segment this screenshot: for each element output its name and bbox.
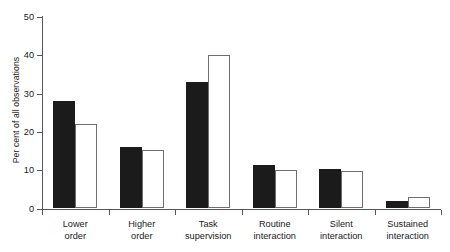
bar-filled-0 xyxy=(53,101,75,208)
bar-open-2 xyxy=(208,55,230,208)
y-axis-tick-mark xyxy=(37,55,42,56)
x-axis-tick-mark xyxy=(242,210,243,215)
bar-filled-4 xyxy=(319,169,341,208)
bar-filled-3 xyxy=(253,165,275,208)
y-axis-tick-label: 50 xyxy=(12,12,34,22)
y-axis-tick-label: 20 xyxy=(12,127,34,137)
x-axis-tick-mark xyxy=(42,210,43,215)
y-axis-tick-mark xyxy=(37,17,42,18)
y-axis-tick-mark xyxy=(37,94,42,95)
x-axis-tick-mark xyxy=(308,210,309,215)
bar-open-1 xyxy=(142,150,164,208)
bar-open-4 xyxy=(341,171,363,208)
x-axis-category-label: Sustainedinteraction xyxy=(369,218,448,243)
y-axis-tick-label: 30 xyxy=(12,89,34,99)
bar-filled-5 xyxy=(386,201,408,209)
bar-open-5 xyxy=(408,197,430,208)
y-axis-tick-label: 40 xyxy=(12,50,34,60)
y-axis-line xyxy=(42,16,43,210)
y-axis-tick-label: 10 xyxy=(12,165,34,175)
x-axis-tick-mark xyxy=(441,210,442,215)
x-axis-category-label-line: Sustained xyxy=(369,218,448,231)
x-axis-tick-mark xyxy=(109,210,110,215)
y-axis-tick-mark xyxy=(37,170,42,171)
x-axis-tick-mark xyxy=(375,210,376,215)
y-axis-title-text: Per cent of all observations xyxy=(11,57,21,163)
bar-chart: Per cent of all observations 01020304050… xyxy=(0,0,450,252)
x-axis-category-label-line: interaction xyxy=(369,230,448,243)
bar-filled-1 xyxy=(120,147,142,208)
bar-filled-2 xyxy=(186,82,208,208)
y-axis-tick-mark xyxy=(37,132,42,133)
y-axis-title: Per cent of all observations xyxy=(8,12,24,208)
bar-open-0 xyxy=(75,124,97,208)
y-axis-tick-label: 0 xyxy=(12,204,34,214)
x-axis-tick-mark xyxy=(175,210,176,215)
bar-open-3 xyxy=(275,170,297,208)
